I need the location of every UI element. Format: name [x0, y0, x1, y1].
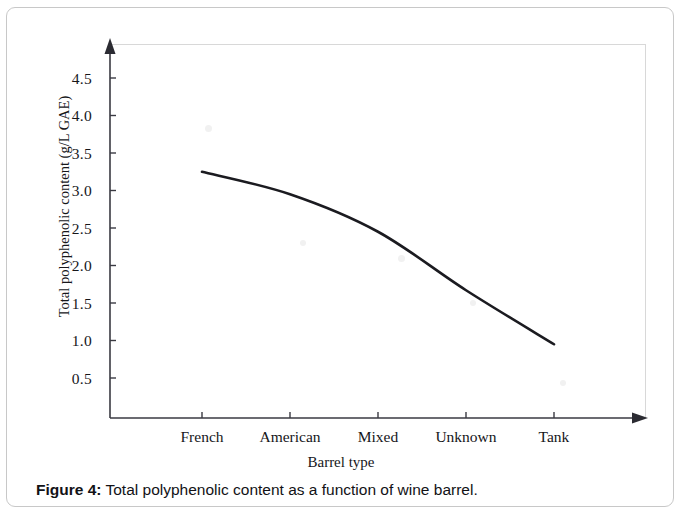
- figure-caption-text: Total polyphenolic content as a function…: [105, 481, 477, 498]
- figure-caption-label: Figure 4:: [36, 481, 101, 498]
- x-axis-arrow-icon: [632, 413, 648, 424]
- figure-page: 4.5 4.0 3.5 3.0 2.5 2.0 1.5 1.0 0.5 Fren…: [0, 0, 682, 520]
- polyphenolic-content-curve: [202, 172, 554, 345]
- y-axis-arrow-icon: [105, 38, 116, 54]
- figure-caption: Figure 4: Total polyphenolic content as …: [36, 481, 651, 499]
- chart-canvas: [0, 0, 682, 520]
